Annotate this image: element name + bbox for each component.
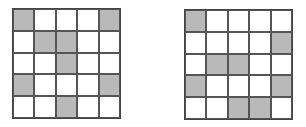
shaded-cell-r4-c3 [249,97,270,119]
shaded-cell-r1-c2 [56,31,77,53]
empty-cell-r1-c3 [249,32,270,54]
empty-cell-r1-c2 [228,32,249,54]
empty-cell-r4-c3 [77,96,98,118]
shaded-cell-r3-c0 [185,75,206,97]
empty-cell-r1-c4 [99,31,120,53]
empty-cell-r2-c1 [34,53,55,75]
empty-cell-r2-c0 [13,53,34,75]
empty-cell-r3-c2 [228,75,249,97]
empty-cell-r0-c4 [271,10,292,32]
empty-cell-r0-c2 [56,9,77,31]
empty-cell-r2-c4 [99,53,120,75]
empty-cell-r3-c3 [77,74,98,96]
empty-cell-r4-c0 [13,96,34,118]
empty-cell-r4-c1 [206,97,227,119]
empty-cell-r0-c3 [77,9,98,31]
empty-cell-r2-c4 [271,54,292,76]
shaded-cell-r0-c0 [185,10,206,32]
empty-cell-r3-c3 [249,75,270,97]
empty-cell-r2-c3 [249,54,270,76]
empty-cell-r0-c2 [228,10,249,32]
empty-cell-r1-c1 [206,32,227,54]
empty-cell-r4-c4 [99,96,120,118]
shaded-cell-r1-c4 [271,32,292,54]
empty-cell-r1-c3 [77,31,98,53]
empty-cell-r3-c1 [206,75,227,97]
empty-cell-r0-c1 [206,10,227,32]
shaded-cell-r4-c2 [228,97,249,119]
shaded-cell-r0-c4 [99,9,120,31]
empty-cell-r0-c1 [34,9,55,31]
shaded-cell-r3-c0 [13,74,34,96]
empty-cell-r1-c0 [185,32,206,54]
empty-cell-r2-c0 [185,54,206,76]
empty-cell-r3-c1 [34,74,55,96]
grid-left [12,8,121,119]
empty-cell-r4-c0 [185,97,206,119]
shaded-cell-r0-c0 [13,9,34,31]
empty-cell-r1-c0 [13,31,34,53]
empty-cell-r4-c1 [34,96,55,118]
shaded-cell-r3-c4 [271,75,292,97]
empty-cell-r2-c3 [77,53,98,75]
shaded-cell-r2-c2 [56,53,77,75]
empty-cell-r0-c3 [249,10,270,32]
shaded-cell-r2-c1 [206,54,227,76]
shaded-cell-r2-c2 [228,54,249,76]
shaded-cell-r1-c1 [34,31,55,53]
shaded-cell-r3-c4 [99,74,120,96]
shaded-cell-r4-c2 [56,96,77,118]
grid-right [184,9,293,120]
empty-cell-r3-c2 [56,74,77,96]
empty-cell-r4-c4 [271,97,292,119]
